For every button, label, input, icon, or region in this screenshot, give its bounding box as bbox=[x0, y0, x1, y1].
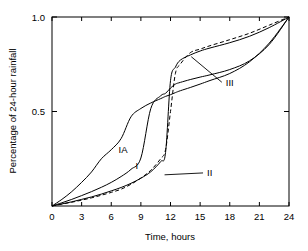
x-axis-tick-labels: 03691215182124 bbox=[49, 211, 294, 222]
y-axis-tick-labels: 0.51.0 bbox=[32, 12, 45, 118]
x-tick-label: 18 bbox=[224, 211, 235, 222]
y-axis-ticks bbox=[52, 17, 289, 112]
x-tick-label: 24 bbox=[284, 211, 295, 222]
y-tick-label: 0.5 bbox=[32, 106, 45, 117]
curve-label-ii: II bbox=[207, 167, 212, 178]
x-tick-label: 3 bbox=[79, 211, 84, 222]
x-tick-label: 0 bbox=[49, 211, 54, 222]
x-axis-label: Time, hours bbox=[145, 231, 195, 242]
curve-label-iii: III bbox=[226, 77, 234, 88]
data-curves bbox=[52, 17, 289, 206]
leader-line-ii bbox=[165, 173, 203, 175]
curve-label-i: I bbox=[136, 160, 139, 171]
chart-svg: 03691215182124 0.51.0 IAIIIIII Time, hou… bbox=[0, 0, 308, 251]
x-tick-label: 9 bbox=[138, 211, 143, 222]
x-tick-label: 15 bbox=[195, 211, 206, 222]
y-axis-label: Percentage of 24-hour rainfall bbox=[7, 48, 18, 173]
x-tick-label: 6 bbox=[109, 211, 114, 222]
rainfall-distribution-chart: 03691215182124 0.51.0 IAIIIIII Time, hou… bbox=[0, 0, 308, 251]
curve-annotations: IAIIIIII bbox=[119, 57, 234, 179]
x-tick-label: 12 bbox=[165, 211, 176, 222]
x-tick-label: 21 bbox=[254, 211, 265, 222]
curve-label-ia: IA bbox=[119, 144, 129, 155]
y-tick-label: 1.0 bbox=[32, 12, 45, 23]
curve-iii bbox=[52, 17, 289, 206]
